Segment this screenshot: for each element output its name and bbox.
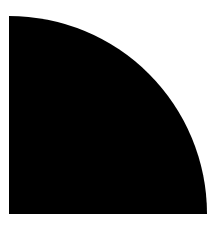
quarter-circle-shape bbox=[9, 16, 207, 214]
canvas bbox=[0, 0, 221, 225]
quarter-circle-figure bbox=[0, 0, 221, 225]
